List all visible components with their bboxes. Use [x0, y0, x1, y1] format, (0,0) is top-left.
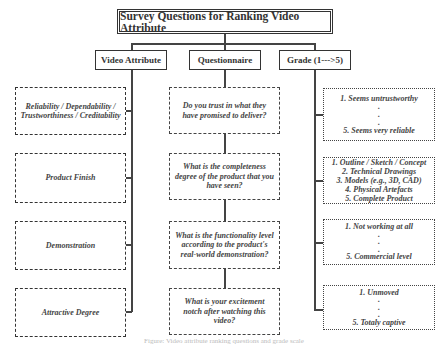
- connector: [125, 311, 132, 313]
- attribute-box-reliability: Reliability / Dependability / Trustworth…: [15, 87, 126, 135]
- question-text: What is the completeness degree of the p…: [170, 162, 279, 191]
- connector: [314, 242, 323, 244]
- grade-line: 1. Outline / Sketch / Concept: [332, 158, 427, 167]
- header-grade: Grade (1--->5): [279, 50, 351, 70]
- connector: [125, 110, 132, 112]
- attribute-label: Product Finish: [45, 173, 95, 183]
- attribute-box-product-finish: Product Finish: [15, 153, 126, 203]
- connector: [224, 70, 226, 87]
- connector: [131, 43, 315, 45]
- attribute-label: Demonstration: [46, 241, 95, 251]
- grade-line: 5. Commercial level: [346, 253, 412, 261]
- connector: [314, 70, 316, 310]
- connector: [131, 70, 133, 312]
- question-box-functionality: What is the functionality level accordin…: [169, 221, 280, 269]
- connector: [131, 43, 133, 50]
- question-text: Do you trust in what they have promised …: [170, 101, 279, 120]
- connector: [224, 133, 226, 153]
- grade-line: 4. Physical Artefacts: [345, 185, 412, 194]
- diagram-title: Survey Questions for Ranking Video Attri…: [117, 9, 333, 34]
- question-box-completeness: What is the completeness degree of the p…: [169, 153, 280, 200]
- attribute-label: Reliability / Dependability / Trustworth…: [16, 102, 125, 121]
- attribute-box-demonstration: Demonstration: [15, 221, 126, 270]
- grade-line: 3. Models (e.g., 3D, CAD): [336, 176, 421, 185]
- diagram-title-text: Survey Questions for Ranking Video Attri…: [120, 10, 330, 34]
- question-text: What is your excitement notch after watc…: [170, 297, 279, 326]
- grade-box-product-finish: 1. Outline / Sketch / Concept 2. Technic…: [323, 157, 435, 204]
- grade-line: 5. Seems very reliable: [343, 127, 415, 135]
- connector: [224, 268, 226, 288]
- header-label: Questionnaire: [198, 55, 252, 65]
- grade-line: 5. Complete Product: [345, 194, 412, 203]
- connector: [314, 309, 323, 311]
- grade-line: 5. Totaly captive: [352, 319, 405, 327]
- attribute-label: Attractive Degree: [42, 308, 100, 318]
- connector: [314, 114, 323, 116]
- connector: [314, 180, 323, 182]
- connector: [125, 244, 132, 246]
- grade-box-attractive: 1. Unmoved . . . 5. Totaly captive: [323, 285, 435, 330]
- connector: [125, 177, 132, 179]
- figure-caption: Figure: Video attribute ranking question…: [0, 337, 448, 349]
- header-label: Grade (1--->5): [287, 55, 343, 65]
- question-text: What is the functionality level accordin…: [170, 231, 279, 260]
- header-video-attribute: Video Attribute: [95, 50, 167, 70]
- question-box-trust: Do you trust in what they have promised …: [169, 87, 280, 134]
- connector: [224, 200, 226, 221]
- grade-box-demonstration: 1. Not working at all . . . 5. Commercia…: [323, 219, 435, 265]
- header-label: Video Attribute: [101, 55, 161, 65]
- grade-line: 2. Technical Drawings: [342, 167, 416, 176]
- connector: [314, 43, 316, 50]
- connector: [224, 43, 226, 50]
- header-questionnaire: Questionnaire: [189, 50, 261, 70]
- grade-box-reliability: 1. Seems untrustworthy . . . 5. Seems ve…: [323, 88, 435, 141]
- attribute-box-attractive-degree: Attractive Degree: [15, 288, 126, 337]
- question-box-excitement: What is your excitement notch after watc…: [169, 288, 280, 335]
